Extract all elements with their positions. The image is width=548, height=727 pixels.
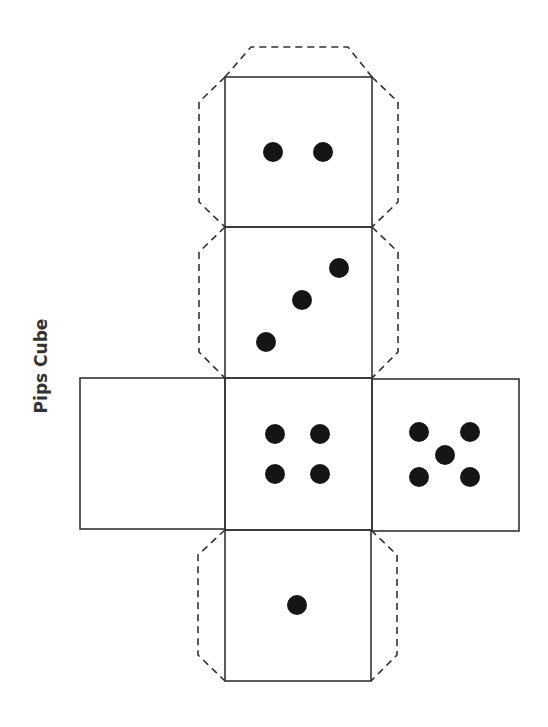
pip [310, 464, 330, 484]
pip [329, 258, 349, 278]
pip [435, 445, 455, 465]
glue-tab-top-cap [225, 47, 372, 77]
pip [460, 422, 480, 442]
face-center [225, 378, 372, 530]
glue-tabs [198, 47, 398, 681]
pip [256, 332, 276, 352]
glue-tab-top-left [199, 77, 225, 227]
pip [292, 290, 312, 310]
pip [460, 467, 480, 487]
pip [310, 424, 330, 444]
glue-tab-bottom-right [371, 530, 397, 681]
glue-tab-top-right [372, 77, 398, 227]
cube-net [0, 0, 548, 727]
face-left [80, 378, 225, 529]
face-right [372, 379, 519, 531]
pip [409, 422, 429, 442]
pip [313, 142, 333, 162]
face-upper-middle [225, 227, 372, 378]
pip [265, 464, 285, 484]
pip [263, 142, 283, 162]
glue-tab-mid-left [199, 227, 225, 378]
face-top [225, 77, 372, 227]
pip [409, 467, 429, 487]
glue-tab-bottom-left [198, 530, 225, 681]
face-bottom [225, 530, 371, 681]
pip [265, 424, 285, 444]
cube-faces [80, 77, 519, 681]
glue-tab-mid-right [372, 227, 398, 378]
pip [287, 595, 307, 615]
